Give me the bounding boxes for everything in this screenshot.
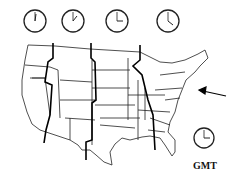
clock-icon-mountain: [62, 10, 84, 32]
gmt-label: GMT: [193, 160, 217, 171]
time-zone-map: [0, 0, 230, 184]
clock-icon-pacific: [24, 10, 46, 32]
clock-icon-eastern: [157, 10, 179, 32]
arrow-icon: [199, 87, 226, 96]
clock-icon-central: [106, 10, 128, 32]
clock-icon-gmt: [194, 128, 214, 148]
